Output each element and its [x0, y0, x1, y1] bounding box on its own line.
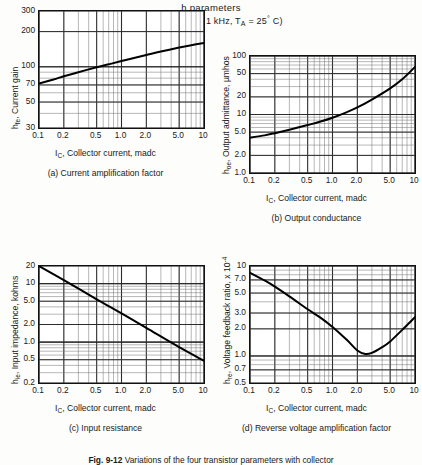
- x-tick-label: 5.0: [377, 175, 401, 185]
- grid-and-curve-d: [250, 266, 415, 383]
- x-tick-label: 0.5: [84, 130, 108, 140]
- x-tick-label: 0.5: [295, 385, 319, 395]
- y-tick-label: 50: [5, 96, 35, 106]
- plot-area-c: [38, 265, 205, 384]
- x-tick-label: 0.5: [84, 385, 108, 395]
- x-tick-label: 0.1: [237, 175, 261, 185]
- x-axis-title-d: IC, Collector current, madc: [211, 403, 422, 414]
- caption-a: (a) Current amplification factor: [0, 168, 211, 178]
- x-tick-label: 5.0: [166, 130, 190, 140]
- x-tick-label: 0.2: [262, 385, 286, 395]
- x-axis-title-b: IC, Collector current, madc: [211, 193, 422, 204]
- y-tick-label: 10: [5, 277, 35, 287]
- y-tick-label: 70: [5, 78, 35, 88]
- y-tick-label: 10: [216, 260, 246, 270]
- y-tick-label: 200: [5, 25, 35, 35]
- y-tick-label: 50: [216, 67, 246, 77]
- x-tick-label: 1.0: [320, 385, 344, 395]
- y-tick-label: 100: [216, 50, 246, 60]
- x-tick-label: 2.0: [133, 385, 157, 395]
- x-tick-label: 0.2: [51, 130, 75, 140]
- x-tick-label: 0.2: [262, 175, 286, 185]
- x-axis-title-a: IC, Collector current, madc: [0, 148, 211, 159]
- chart-panel-a: hfe, Current gain IC, Collector current,…: [0, 0, 211, 190]
- chart-panel-d: hre, Voltage feedback ratio, x 10-4 IC, …: [211, 255, 422, 445]
- figure-caption: Fig. 9-12 Variations of the four transis…: [0, 455, 422, 465]
- figure-caption-label: Fig. 9-12: [88, 455, 122, 465]
- x-tick-label: 1.0: [109, 130, 133, 140]
- chart-panel-c: hie, Input impedance, kohms IC, Collecto…: [0, 255, 211, 445]
- y-tick-label: 2.0: [5, 318, 35, 328]
- grid-and-curve-c: [39, 266, 204, 383]
- y-tick-label: 2.0: [216, 322, 246, 332]
- y-axis-text: , Current gain: [10, 67, 20, 119]
- y-tick-label: 5.0: [216, 287, 246, 297]
- x-axis-text: , Collector current, madc: [273, 403, 367, 413]
- y-tick-label: 5.0: [216, 126, 246, 136]
- y-tick-label: 0.5: [5, 353, 35, 363]
- x-axis-text: , Collector current, madc: [273, 193, 367, 203]
- x-axis-text: , Collector current, madc: [62, 403, 156, 413]
- x-tick-label: 10: [402, 385, 422, 395]
- y-tick-label: 0.7: [216, 363, 246, 373]
- grid-and-curve-b: [250, 56, 415, 173]
- figure-caption-text: Variations of the four transistor parame…: [125, 455, 334, 465]
- chart-panel-b: hoe, Output admittance, µmhos IC, Collec…: [211, 45, 422, 235]
- plot-area-d: [249, 265, 416, 384]
- y-tick-label: 1.0: [216, 349, 246, 359]
- y-tick-label: 10: [216, 108, 246, 118]
- x-axis-text: , Collector current, madc: [62, 148, 156, 158]
- conditions-end: = 25: [246, 16, 267, 26]
- y-tick-label: 2.0: [216, 149, 246, 159]
- y-tick-label: 1.0: [5, 336, 35, 346]
- x-tick-label: 0.2: [51, 385, 75, 395]
- x-tick-label: 0.1: [26, 385, 50, 395]
- plot-area-a: [38, 10, 205, 129]
- x-tick-label: 0.5: [295, 175, 319, 185]
- caption-c: (c) Input resistance: [0, 423, 211, 433]
- y-axis-title-c: hie, Input impedance, kohms: [10, 276, 21, 384]
- caption-d: (d) Reverse voltage amplification factor: [211, 423, 422, 433]
- x-tick-label: 5.0: [166, 385, 190, 395]
- figure-page: h parameters (VCE = 10 v, f = 1 kHz, TA …: [0, 0, 422, 465]
- y-tick-label: 20: [5, 260, 35, 270]
- x-tick-label: 0.1: [26, 130, 50, 140]
- y-tick-label: 300: [5, 5, 35, 15]
- plot-area-b: [249, 55, 416, 174]
- x-tick-label: 2.0: [344, 175, 368, 185]
- caption-b: (b) Output conductance: [211, 213, 422, 223]
- y-tick-label: 5.0: [5, 295, 35, 305]
- y-tick-label: 100: [5, 60, 35, 70]
- grid-and-curve-a: [39, 11, 204, 128]
- x-tick-label: 0.1: [237, 385, 261, 395]
- x-tick-label: 10: [402, 175, 422, 185]
- x-tick-label: 2.0: [133, 130, 157, 140]
- conditions-tail: C): [270, 16, 283, 26]
- x-axis-title-c: IC, Collector current, madc: [0, 403, 211, 414]
- y-tick-label: 7.0: [216, 273, 246, 283]
- y-tick-label: 20: [216, 90, 246, 100]
- x-tick-label: 2.0: [344, 385, 368, 395]
- x-tick-label: 1.0: [320, 175, 344, 185]
- y-tick-label: 3.0: [216, 307, 246, 317]
- x-tick-label: 1.0: [109, 385, 133, 395]
- x-tick-label: 5.0: [377, 385, 401, 395]
